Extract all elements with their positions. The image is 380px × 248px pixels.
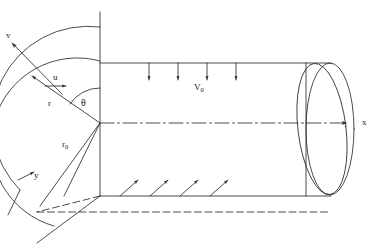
y-axis-vector — [18, 172, 34, 180]
label-axis-x: x — [362, 118, 367, 127]
label-freestream-v0: V0 — [194, 83, 204, 92]
outer-shell-arc — [0, 26, 100, 190]
radial-line-secondary — [64, 123, 100, 196]
label-angle-theta: θ — [81, 98, 86, 108]
plane-lower-left-edge — [37, 196, 100, 243]
label-velocity-v: v — [6, 31, 11, 40]
hidden-bottom-left-edge — [37, 196, 100, 212]
label-axis-y: y — [34, 171, 39, 180]
cylinder-end-cap-front — [306, 63, 354, 195]
technical-diagram: v u r θ r0 y V0 x — [0, 0, 380, 248]
label-velocity-u: u — [53, 73, 58, 82]
cylinder-end-cap-rear — [290, 61, 354, 198]
label-outer-radius-subscript: 0 — [65, 143, 68, 150]
crossflow-arrow-bottom-3 — [180, 180, 198, 196]
outer-arc-extension — [8, 190, 20, 215]
radial-line-r0 — [40, 123, 100, 206]
label-radius-r: r — [48, 99, 51, 108]
crossflow-arrow-bottom-2 — [150, 180, 168, 196]
label-freestream-subscript: 0 — [201, 86, 204, 93]
label-freestream-base: V — [194, 82, 201, 92]
label-outer-radius-r0: r0 — [62, 140, 68, 149]
crossflow-arrow-bottom-4 — [210, 180, 228, 196]
radial-line-r — [32, 76, 100, 123]
crossflow-arrow-bottom-1 — [120, 180, 138, 196]
diagram-canvas — [0, 0, 380, 248]
